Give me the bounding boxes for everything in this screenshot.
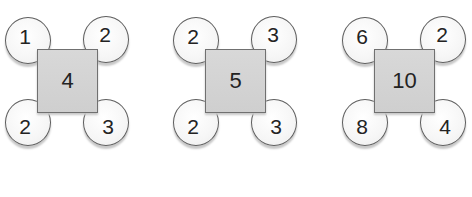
center-number: 10 — [392, 68, 416, 94]
corner-number: 8 — [356, 115, 368, 139]
figure-1: 1 2 2 3 4 — [0, 0, 136, 160]
figure-3: 6 2 8 4 10 — [337, 0, 472, 160]
corner-number: 2 — [436, 23, 448, 47]
center-square: 5 — [205, 49, 266, 113]
center-number: 5 — [229, 68, 241, 94]
center-square: 10 — [374, 49, 435, 113]
corner-number: 3 — [270, 115, 282, 139]
corner-number: 1 — [19, 25, 31, 49]
corner-number: 2 — [19, 115, 31, 139]
corner-number: 4 — [439, 115, 451, 139]
center-square: 4 — [37, 49, 98, 113]
corner-number: 3 — [267, 23, 279, 47]
corner-number: 3 — [102, 115, 114, 139]
corner-number: 2 — [187, 115, 199, 139]
center-number: 4 — [61, 68, 73, 94]
corner-number: 6 — [356, 25, 368, 49]
figure-2: 2 3 2 3 5 — [168, 0, 304, 160]
corner-number: 2 — [187, 25, 199, 49]
corner-number: 2 — [99, 23, 111, 47]
